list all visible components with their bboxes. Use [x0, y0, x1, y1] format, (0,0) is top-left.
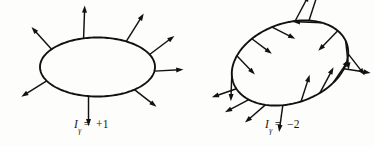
vector-02-shaft [237, 56, 252, 72]
closed-curve-right [232, 20, 348, 105]
panel-right-diagram [212, 0, 371, 132]
vector-08-shaft [321, 31, 338, 48]
vector-01-shaft [231, 74, 232, 97]
index-label-left: Iγ= +1 [74, 118, 109, 133]
vector-up-shaft [84, 9, 85, 38]
vector-group-right [212, 0, 371, 132]
vector-13-head [328, 67, 334, 75]
vector-05-shaft [295, 0, 307, 21]
index-value-left: +1 [96, 118, 109, 130]
vector-17-shaft [228, 100, 248, 111]
vector-down-left-shaft [25, 81, 47, 95]
vector-right-head [176, 67, 183, 72]
vector-06-shaft [309, 0, 318, 21]
vector-group-left [21, 5, 183, 126]
vector-up-left-shaft [34, 30, 51, 49]
index-label-right: Iγ= −2 [265, 118, 300, 133]
vector-14-shaft [301, 79, 308, 102]
vector-down-left-head [21, 91, 28, 97]
panel-left-diagram [21, 5, 183, 126]
vector-right-shaft [154, 70, 179, 71]
index-equals-right: = [275, 118, 282, 130]
index-equals-left: = [84, 118, 91, 130]
vector-16-shaft [248, 105, 265, 120]
index-subscript-right: γ [269, 126, 272, 135]
vector-17-head [225, 107, 233, 113]
vector-up-head [82, 5, 87, 12]
vector-04-shaft [272, 27, 292, 37]
vector-04-head [288, 33, 296, 39]
vector-14-head [305, 75, 310, 83]
closed-curve-left [40, 38, 155, 97]
vector-05-head [304, 0, 310, 2]
vector-07-shaft [297, 22, 322, 23]
index-value-right: −2 [287, 118, 300, 130]
vector-up-right-upper-head [138, 13, 144, 20]
vector-12-shaft [333, 63, 346, 83]
vector-18-head [212, 93, 220, 98]
vector-up-right-lower-shaft [150, 38, 172, 54]
vector-field-index-diagram [0, 0, 374, 147]
figure-container: Iγ= +1 Iγ= −2 [0, 0, 374, 147]
vector-down-right-shaft [134, 90, 153, 105]
vector-01-head [229, 94, 234, 101]
vector-up-right-upper-shaft [126, 17, 141, 42]
index-subscript-left: γ [78, 126, 81, 135]
vector-11-head [363, 69, 371, 74]
vector-11-shaft [344, 69, 367, 73]
